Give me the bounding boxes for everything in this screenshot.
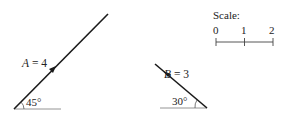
vector-b-label: B = 3 bbox=[164, 68, 189, 80]
vector-a-angle-label: 45° bbox=[26, 96, 41, 108]
vector-b-angle-label: 30° bbox=[172, 95, 187, 107]
scale-tick-0: 0 bbox=[213, 24, 219, 36]
vector-diagram: A = 4 45° B = 3 30° Scale: 0 1 2 bbox=[0, 0, 285, 118]
scale-title: Scale: bbox=[213, 9, 240, 21]
scale-legend: Scale: 0 1 2 bbox=[213, 9, 275, 46]
vector-a-label: A = 4 bbox=[21, 57, 47, 69]
scale-tick-1: 1 bbox=[241, 24, 247, 36]
vector-b-angle-arc bbox=[195, 100, 197, 108]
scale-tick-2: 2 bbox=[269, 24, 275, 36]
vector-b: B = 3 30° bbox=[155, 64, 207, 108]
vector-a-angle-arc bbox=[21, 102, 24, 109]
vector-a: A = 4 45° bbox=[14, 14, 108, 109]
